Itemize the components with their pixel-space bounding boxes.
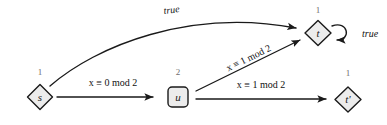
edge-s-to-u-label: x ≡ 0 mod 2 <box>89 77 137 88</box>
node-u-count: 2 <box>176 67 181 77</box>
node-u-label: u <box>175 91 181 103</box>
edge-s-to-t: true <box>50 3 296 86</box>
edge-s-to-u: x ≡ 0 mod 2 <box>57 77 153 97</box>
node-s-count: 1 <box>38 67 43 77</box>
node-tprime-label: t' <box>345 93 351 105</box>
node-u[interactable]: 2 u <box>168 67 188 107</box>
node-tprime[interactable]: 1 t' <box>335 68 361 112</box>
transition-system-diagram: true x ≡ 0 mod 2 x ≡ 1 mod 2 x ≡ 1 mod 2… <box>0 0 387 125</box>
diagram-canvas: true x ≡ 0 mod 2 x ≡ 1 mod 2 x ≡ 1 mod 2… <box>0 0 387 125</box>
edge-u-to-t-label: x ≡ 1 mod 2 <box>224 42 272 73</box>
edge-t-self-loop-label: true <box>362 28 379 39</box>
node-s-label: s <box>38 91 42 103</box>
node-tprime-count: 1 <box>346 68 351 78</box>
edge-u-to-tprime-label: x ≡ 1 mod 2 <box>237 79 285 90</box>
edge-t-self-loop: true <box>332 25 379 40</box>
edge-t-self-loop-line <box>332 25 346 40</box>
edge-s-to-t-label: true <box>163 3 181 16</box>
node-s[interactable]: 1 s <box>28 67 53 110</box>
node-t[interactable]: 1 t <box>305 5 331 46</box>
node-t-count: 1 <box>316 5 321 15</box>
